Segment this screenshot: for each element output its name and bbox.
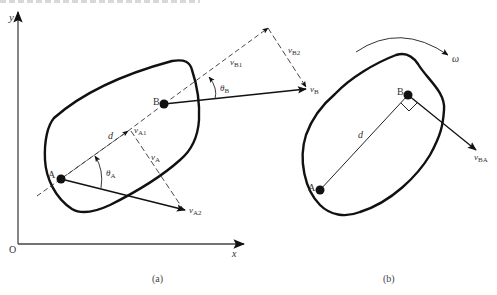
vB-vector	[164, 89, 306, 104]
theta-a-label: θA	[106, 168, 115, 180]
panel-a: y O x A B d vA1 vA vA2 θA vB1 vB2 vB	[8, 11, 319, 285]
rigid-body-velocity-diagram: y O x A B d vA1 vA vA2 θA vB1 vB2 vB	[0, 0, 497, 295]
distance-d-label: d	[108, 130, 114, 141]
point-b-label-b: B	[397, 86, 404, 97]
rigid-body-outline-a	[45, 60, 199, 212]
point-b	[160, 100, 169, 109]
y-axis-label: y	[8, 11, 14, 23]
point-b-label: B	[153, 96, 160, 107]
vB-label: vB	[310, 84, 319, 96]
omega-rotation-arc	[356, 38, 448, 55]
theta-a-arc	[95, 156, 102, 188]
point-a-label-b: A	[308, 182, 316, 193]
point-a	[57, 175, 66, 184]
vBA-vector	[408, 95, 476, 150]
point-b-b	[404, 91, 413, 100]
vA-label: vA	[151, 152, 160, 164]
theta-b-label: θB	[220, 83, 229, 95]
vB1-label: vB1	[230, 57, 243, 69]
point-a-b	[316, 186, 325, 195]
vA1-label: vA1	[134, 125, 147, 137]
vA2-label: vA2	[189, 205, 202, 217]
panel-b-caption: (b)	[383, 273, 395, 285]
vB2-vector	[268, 28, 306, 87]
vB2-label: vB2	[288, 45, 301, 57]
distance-d-label-b: d	[358, 129, 364, 140]
line-ab	[320, 95, 408, 190]
vBA-label: vBA	[474, 152, 488, 164]
theta-b-arc	[209, 77, 216, 99]
omega-label: ω	[452, 53, 459, 64]
origin-label: O	[9, 244, 16, 255]
point-a-label: A	[48, 169, 56, 180]
panel-a-caption: (a)	[152, 273, 163, 285]
right-angle-marker	[401, 103, 417, 111]
vA-component-dashed	[131, 131, 183, 209]
x-axis-label: x	[231, 248, 237, 259]
panel-b: ω A B d vBA (b)	[303, 38, 488, 285]
